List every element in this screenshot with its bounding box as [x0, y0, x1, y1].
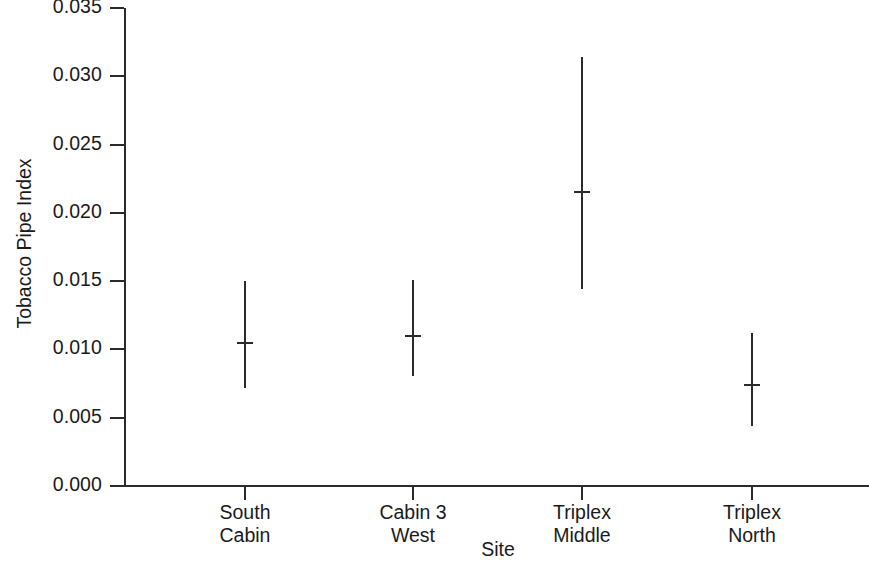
x-tick-label-line: Cabin 3 — [333, 501, 493, 524]
x-tick-mark — [581, 487, 583, 500]
y-tick-mark — [110, 75, 124, 77]
y-tick-label-text: 0.035 — [30, 0, 102, 18]
y-tick-label: 0.035 — [24, 0, 102, 19]
x-tick-mark — [412, 487, 414, 500]
y-tick-mark — [110, 144, 124, 146]
error-bar-center-marker — [744, 384, 760, 386]
x-tick-label-line: Triplex — [502, 501, 662, 524]
error-bar-stem — [244, 281, 246, 388]
y-tick-label: 0.010 — [24, 336, 102, 360]
y-axis-spine — [124, 8, 126, 487]
x-tick-label-line: Triplex — [672, 501, 832, 524]
x-tick-mark — [244, 487, 246, 500]
error-bar-stem — [581, 57, 583, 289]
error-bar-center-marker — [405, 335, 421, 337]
x-tick-label: SouthCabin — [165, 501, 325, 547]
y-tick-label-text: 0.010 — [30, 336, 102, 359]
y-tick-label-text: 0.015 — [30, 268, 102, 291]
y-tick-label-text: 0.020 — [30, 200, 102, 223]
y-tick-mark — [110, 280, 124, 282]
error-bar-center-marker — [574, 191, 590, 193]
y-tick-mark — [110, 485, 124, 487]
y-tick-label-text: 0.000 — [30, 473, 102, 496]
y-tick-label: 0.005 — [24, 405, 102, 429]
x-tick-label-line: Cabin — [165, 524, 325, 547]
chart-plot-area: 0.0000.0050.0100.0150.0200.0250.0300.035… — [0, 0, 869, 567]
y-tick-label-text: 0.025 — [30, 132, 102, 155]
error-bar-stem — [751, 333, 753, 426]
y-tick-mark — [110, 212, 124, 214]
x-tick-mark — [751, 487, 753, 500]
y-tick-mark — [110, 348, 124, 350]
y-tick-label-text: 0.030 — [30, 63, 102, 86]
y-tick-label-text: 0.005 — [30, 405, 102, 428]
error-bar-center-marker — [237, 342, 253, 344]
y-tick-label: 0.015 — [24, 268, 102, 292]
error-bar-stem — [412, 280, 414, 376]
x-tick-label-line: North — [672, 524, 832, 547]
y-tick-label: 0.030 — [24, 63, 102, 87]
x-axis-spine — [124, 485, 869, 487]
y-tick-label: 0.020 — [24, 200, 102, 224]
y-tick-mark — [110, 417, 124, 419]
x-tick-label: TriplexNorth — [672, 501, 832, 547]
x-tick-label-line: South — [165, 501, 325, 524]
x-axis-title: Site — [418, 538, 578, 561]
y-tick-label: 0.000 — [24, 473, 102, 497]
y-tick-mark — [110, 7, 124, 9]
y-tick-label: 0.025 — [24, 132, 102, 156]
y-axis-title: Tobacco Pipe Index — [13, 134, 36, 354]
